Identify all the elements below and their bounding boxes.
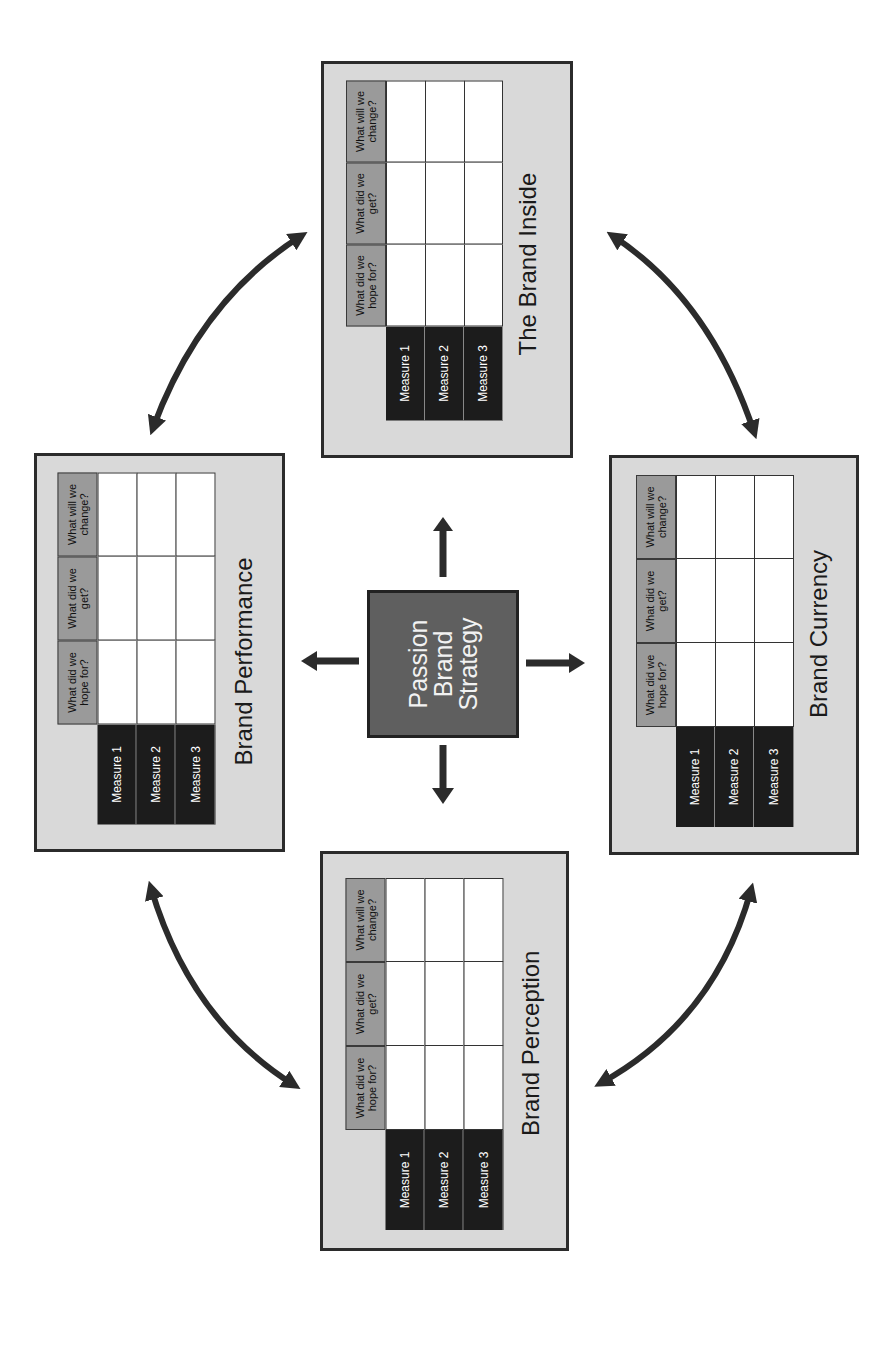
curved-double-arrow-icon [601,890,751,1083]
straight-arrow-right-icon [526,653,585,673]
curved-double-arrow-icon [613,236,754,432]
curved-double-arrow-icon [153,236,301,428]
straight-arrow-up-icon [433,517,453,577]
curved-double-arrow-icon [151,888,294,1085]
straight-arrow-left-icon [301,651,359,671]
straight-arrow-down-icon [432,745,454,804]
arrows-layer [0,0,883,1348]
